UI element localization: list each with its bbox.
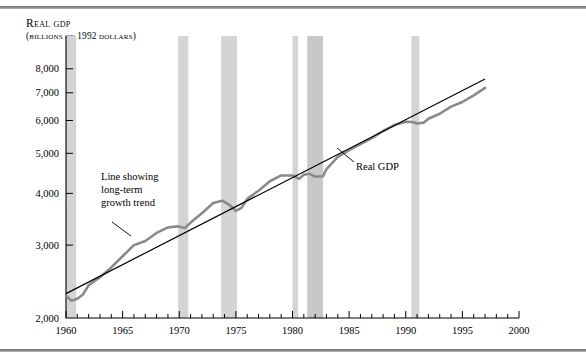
trend-annotation-label: growth trend [101, 197, 156, 208]
y-axis-tick-label: 2,000 [35, 313, 59, 324]
y-axis-tick-label: 7,000 [35, 87, 59, 98]
y-axis-tick-label: 4,000 [35, 188, 59, 199]
x-axis-tick-label: 1995 [452, 325, 473, 336]
recession-band [178, 36, 188, 318]
y-axis-tick-label: 3,000 [35, 240, 59, 251]
figure-container: Real GDP (Billions of 1992 dollars) 2,00… [0, 0, 586, 361]
x-axis-tick-label: 1985 [339, 325, 360, 336]
x-axis-tick-label: 1975 [225, 325, 246, 336]
trend-annotation-label: Line showing [101, 171, 159, 182]
recession-band [411, 36, 419, 318]
y-axis-tick-label: 6,000 [35, 115, 59, 126]
y-axis-tick-label: 5,000 [35, 148, 59, 159]
recession-band [66, 36, 76, 318]
chart-plot-area: 2,0003,0004,0005,0006,0007,0008,00019601… [0, 0, 586, 361]
real-gdp-annotation-label: Real GDP [356, 161, 399, 172]
trend-annotation-label: long-term [101, 184, 142, 195]
x-axis-tick-label: 1980 [282, 325, 303, 336]
x-axis-tick-label: 1965 [112, 325, 133, 336]
y-axis-tick-label: 8,000 [35, 63, 59, 74]
x-axis-tick-label: 2000 [509, 325, 530, 336]
x-axis-tick-label: 1970 [169, 325, 190, 336]
trend-annotation-leader-line [112, 222, 131, 236]
x-axis-tick-label: 1960 [56, 325, 77, 336]
recession-band [221, 36, 237, 318]
annotations-group: Line showinglong-termgrowth trendReal GD… [101, 148, 399, 236]
x-axis-tick-label: 1990 [395, 325, 416, 336]
